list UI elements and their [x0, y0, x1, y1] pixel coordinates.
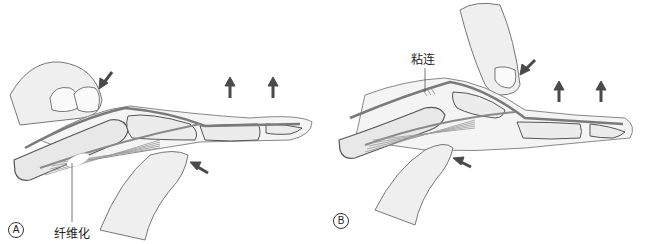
arrow-down-left-icon: [99, 72, 112, 89]
fibrosis-label: 纤维化: [54, 224, 90, 241]
arrow-down-left-icon: [520, 60, 535, 75]
panel-b-illustration: [325, 0, 651, 244]
panel-a-illustration: [0, 0, 325, 244]
arrow-left-icon: [453, 157, 471, 167]
panel-b: B 粘连: [325, 0, 651, 244]
arrow-up-icon: [554, 81, 564, 102]
panel-letter-a: A: [8, 222, 24, 238]
arrow-left-icon: [190, 162, 208, 173]
examiner-fingers-icon: [10, 62, 102, 125]
panel-letter-b: B: [333, 213, 349, 229]
arrow-up-icon: [225, 77, 235, 98]
examiner-bottom-finger-icon: [100, 152, 188, 241]
arrow-up-icon: [268, 77, 278, 98]
adhesion-label: 粘连: [411, 50, 435, 67]
panel-a: A 纤维化: [0, 0, 325, 244]
arrow-up-icon: [596, 81, 606, 102]
examiner-bottom-finger-icon: [375, 144, 453, 225]
